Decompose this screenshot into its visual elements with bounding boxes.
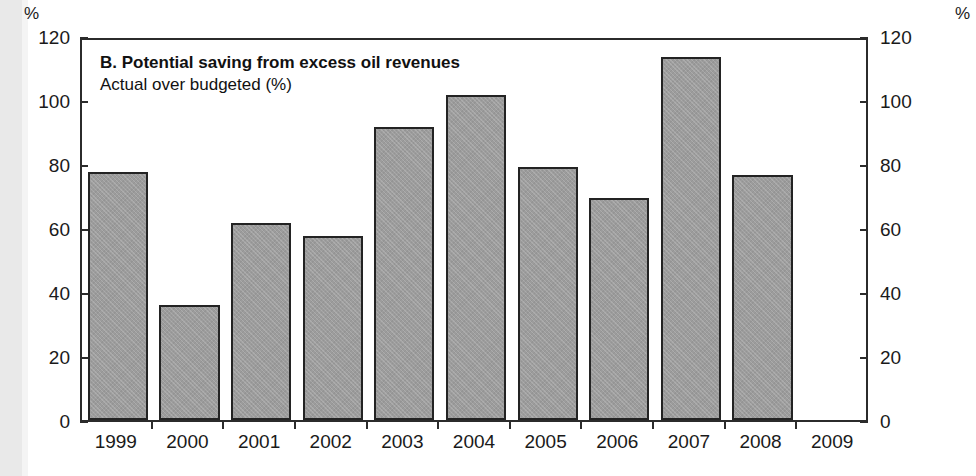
bar-slot	[369, 40, 441, 420]
x-tick-2005	[580, 422, 582, 429]
x-tick-2008	[795, 422, 797, 429]
bar-slot	[225, 40, 297, 420]
x-tick-label-2004: 2004	[438, 432, 510, 452]
x-tick-label-2006: 2006	[581, 432, 653, 452]
bar-2005	[518, 167, 578, 420]
x-tick-2003	[437, 422, 439, 429]
y-tick-label-left-20: 20	[49, 348, 70, 367]
y-tick-left-80	[80, 165, 88, 167]
bar-2002	[303, 236, 363, 420]
x-tick-label-1999: 1999	[80, 432, 152, 452]
y-tick-label-right-80: 80	[880, 156, 901, 175]
page-margin-strip	[0, 0, 22, 476]
x-tick-label-2008: 2008	[725, 432, 797, 452]
x-tick-2006	[652, 422, 654, 429]
y-tick-right-20	[860, 357, 868, 359]
x-tick-label-2002: 2002	[295, 432, 367, 452]
y-tick-right-80	[860, 165, 868, 167]
y-tick-label-left-100: 100	[38, 92, 70, 111]
bar-slot	[583, 40, 655, 420]
x-tick-2001	[294, 422, 296, 429]
bar-2007	[661, 57, 721, 420]
y-tick-right-40	[860, 293, 868, 295]
bar-slot	[655, 40, 727, 420]
bar-1999	[88, 172, 148, 420]
y-tick-label-left-120: 120	[38, 28, 70, 47]
x-tick-label-2009: 2009	[796, 432, 868, 452]
y-tick-label-right-120: 120	[880, 28, 912, 47]
y-tick-left-0	[80, 421, 88, 423]
x-tick-2004	[509, 422, 511, 429]
x-tick-2002	[366, 422, 368, 429]
y-tick-label-left-0: 0	[59, 412, 70, 431]
bar-slot	[512, 40, 584, 420]
y-tick-label-left-80: 80	[49, 156, 70, 175]
bar-2001	[231, 223, 291, 420]
y-tick-left-60	[80, 229, 88, 231]
x-tick-label-2001: 2001	[223, 432, 295, 452]
y-tick-label-right-40: 40	[880, 284, 901, 303]
y-tick-label-left-60: 60	[49, 220, 70, 239]
y-tick-right-60	[860, 229, 868, 231]
x-tick-label-2000: 2000	[152, 432, 224, 452]
y-tick-right-100	[860, 101, 868, 103]
y-tick-right-120	[860, 37, 868, 39]
bar-2004	[446, 95, 506, 420]
x-tick-label-2005: 2005	[510, 432, 582, 452]
chart-title: B. Potential saving from excess oil reve…	[100, 52, 640, 74]
x-tick-2007	[724, 422, 726, 429]
bar-2003	[374, 127, 434, 420]
y-tick-label-left-40: 40	[49, 284, 70, 303]
bar-slot	[297, 40, 369, 420]
y-axis-unit-label-right: %	[955, 5, 970, 22]
x-tick-label-2003: 2003	[367, 432, 439, 452]
bar-slot	[440, 40, 512, 420]
chart-page: % % B. Potential saving from excess oil …	[0, 0, 976, 476]
bar-2000	[159, 305, 219, 420]
bar-2008	[732, 175, 792, 420]
x-tick-1999	[151, 422, 153, 429]
bar-slot	[154, 40, 226, 420]
y-tick-left-20	[80, 357, 88, 359]
y-tick-label-right-60: 60	[880, 220, 901, 239]
y-tick-label-right-0: 0	[880, 412, 891, 431]
x-tick-2000	[222, 422, 224, 429]
y-tick-left-120	[80, 37, 88, 39]
bar-2006	[589, 198, 649, 420]
chart-title-block: B. Potential saving from excess oil reve…	[100, 52, 640, 96]
page-margin-strip-inner	[22, 0, 28, 476]
y-tick-label-right-20: 20	[880, 348, 901, 367]
y-tick-left-40	[80, 293, 88, 295]
x-tick-label-2007: 2007	[653, 432, 725, 452]
y-tick-left-100	[80, 101, 88, 103]
y-tick-label-right-100: 100	[880, 92, 912, 111]
bar-slot	[727, 40, 799, 420]
bar-series	[82, 40, 866, 420]
bar-slot	[82, 40, 154, 420]
y-tick-right-0	[860, 421, 868, 423]
y-axis-unit-label-left: %	[24, 5, 39, 22]
chart-subtitle: Actual over budgeted (%)	[100, 74, 640, 96]
